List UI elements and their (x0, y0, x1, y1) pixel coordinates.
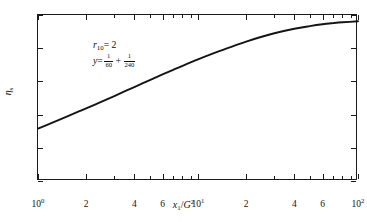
y-axis-title-symbol: η (2, 90, 13, 95)
annotation-text: + (115, 56, 121, 66)
x-tick-label: 100 (32, 199, 45, 209)
x-tick-label-exponent: 2 (361, 197, 364, 204)
x-tick-label: 2 (244, 199, 249, 209)
x-tick-mark (358, 174, 359, 179)
efficiency-curve-line (38, 21, 358, 128)
y-tick-mark (38, 181, 43, 182)
annotation-text: = (97, 56, 103, 66)
x-tick-mark-top (358, 15, 359, 20)
x-tick-label: 2 (84, 199, 89, 209)
x-tick-label-exponent: 1 (201, 197, 204, 204)
x-axis-title-subscript: 1 (177, 204, 180, 211)
x-tick-label: 6 (160, 199, 165, 209)
plot-frame: 00.20.40.60.81.0 100246101246102 r10 = 2… (37, 14, 357, 180)
y-tick-mark-right (351, 181, 356, 182)
y-axis-title-subscript: s (7, 88, 15, 91)
fraction-numerator: 1 (106, 53, 111, 60)
figure-container: ηs x1/G2 00.20.40.60.81.0 10024610124610… (0, 0, 367, 222)
fraction-numerator: 1 (127, 53, 132, 60)
annotation-y-expression: y = 160+1240 (93, 55, 137, 68)
annotation-text: = 2 (104, 40, 117, 50)
x-tick-label: 4 (132, 199, 137, 209)
x-tick-label: 6 (320, 199, 325, 209)
annotation-r10: r10 = 2 (93, 39, 137, 52)
curve-plot-area (38, 15, 358, 181)
annotation-fraction: 160 (104, 53, 113, 68)
x-tick-label: 101 (192, 199, 205, 209)
plot-annotations: r10 = 2y = 160+1240 (93, 39, 137, 71)
annotation-subscript: 10 (97, 44, 104, 51)
fraction-denominator: 240 (124, 61, 136, 69)
annotation-fraction: 1240 (124, 53, 136, 68)
y-axis-title: ηs (2, 88, 13, 96)
x-tick-label: 4 (292, 199, 297, 209)
x-tick-label-exponent: 0 (41, 197, 44, 204)
fraction-denominator: 60 (104, 61, 113, 69)
x-tick-label: 102 (352, 199, 365, 209)
x-axis-title-denominator: G (184, 199, 191, 210)
x-axis-title: x1/G2 (0, 199, 367, 210)
